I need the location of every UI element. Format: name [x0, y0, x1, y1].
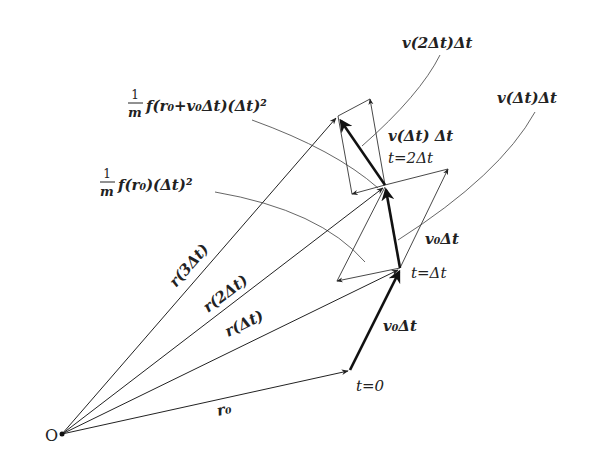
svg-text:1: 1: [103, 167, 111, 181]
origin-label: O: [45, 426, 58, 445]
label-v-dt-dt-callout: v(Δt)Δt: [497, 89, 557, 107]
trajectory-diagram: O t=0 t=Δt t=2Δt r₀ r(Δt) r(2Δt) r(3Δt) …: [0, 0, 600, 465]
label-r-3dt: r(3Δt): [165, 240, 212, 290]
label-v0dt-upper: v₀Δt: [425, 230, 459, 248]
leader-f-r0v0dt: [252, 120, 378, 188]
leader-f-r0: [215, 192, 365, 262]
point-label-t0: t=0: [356, 377, 385, 395]
label-v-dt-dt-inline: v(Δt) Δt: [388, 127, 453, 145]
label-force-r0-v0dt: 1 m f(r₀+v₀Δt)(Δt)²: [128, 88, 267, 120]
label-r0: r₀: [215, 399, 233, 420]
svg-text:m: m: [100, 184, 114, 199]
point-label-t2: t=2Δt: [388, 149, 434, 167]
step-2: [386, 190, 400, 268]
label-v0dt-lower: v₀Δt: [383, 317, 417, 335]
vector-r-2dt: [62, 188, 383, 434]
label-v-2dt-dt-callout: v(2Δt)Δt: [402, 34, 473, 52]
leader-lines: [215, 55, 535, 262]
svg-text:f(r₀+v₀Δt)(Δt)²: f(r₀+v₀Δt)(Δt)²: [145, 97, 267, 115]
svg-text:m: m: [128, 105, 142, 120]
svg-text:f(r₀)(Δt)²: f(r₀)(Δt)²: [117, 176, 193, 194]
svg-text:1: 1: [131, 88, 139, 102]
vector-r0: [62, 371, 348, 434]
point-label-t1: t=Δt: [411, 264, 447, 282]
label-r-dt: r(Δt): [222, 307, 266, 341]
vector-r-3dt: [62, 118, 336, 434]
label-force-r0: 1 m f(r₀)(Δt)²: [100, 167, 193, 199]
label-r-2dt: r(2Δt): [200, 271, 252, 316]
origin-point: [60, 432, 65, 437]
